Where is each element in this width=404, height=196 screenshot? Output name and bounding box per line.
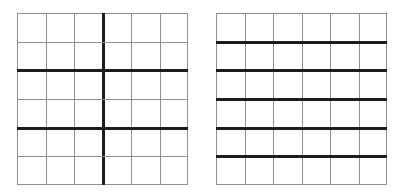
right-grid-thick-hline-5 <box>216 155 387 158</box>
right-grid-panel <box>216 13 387 185</box>
right-grid-thick-hline-2 <box>216 69 387 72</box>
left-grid-thin-hline-5 <box>17 156 188 157</box>
left-grid-thick-hline-2 <box>17 69 188 72</box>
left-grid-panel <box>17 13 188 185</box>
left-grid-thin-hline-3 <box>17 99 188 100</box>
left-grid-thick-hline-4 <box>17 127 188 130</box>
right-grid-thick-hline-4 <box>216 127 387 130</box>
right-grid-thick-hline-1 <box>216 41 387 44</box>
right-grid-thick-hline-3 <box>216 98 387 101</box>
figure-canvas <box>0 0 404 196</box>
left-grid-thin-hline-1 <box>17 42 188 43</box>
